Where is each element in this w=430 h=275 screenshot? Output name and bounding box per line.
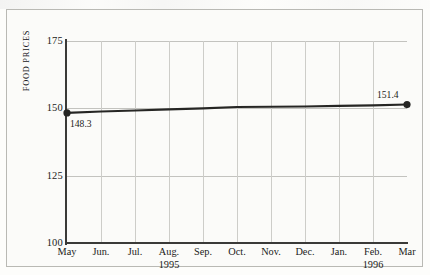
scan-artifact bbox=[0, 0, 430, 9]
data-value-label: 148.3 bbox=[70, 118, 92, 129]
data-point-marker bbox=[403, 101, 410, 108]
data-value-label: 151.4 bbox=[377, 89, 399, 100]
data-series-layer bbox=[7, 10, 424, 268]
series-line-food-prices bbox=[67, 105, 407, 113]
chart-figure: FOOD PRICES 100125150175 MayJun.Jul.Aug.… bbox=[6, 9, 423, 267]
series-markers bbox=[63, 101, 410, 117]
data-point-marker bbox=[63, 109, 70, 116]
